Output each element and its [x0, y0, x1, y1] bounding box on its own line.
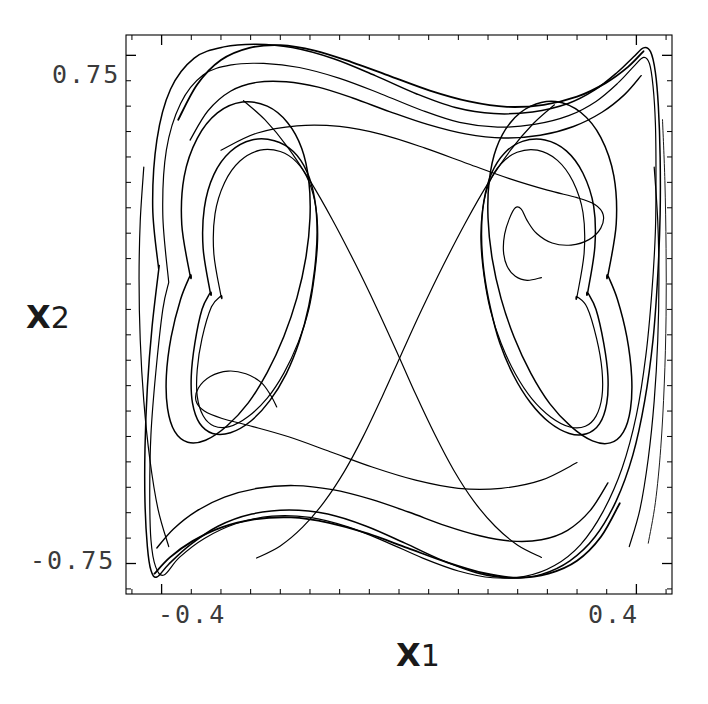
trajectory-path — [221, 125, 604, 280]
y-tick-label-0-75: 0.75 — [52, 60, 120, 89]
trajectory-path — [150, 57, 656, 578]
y-axis-title-main: X — [26, 298, 51, 336]
x-axis-title: X1 — [396, 636, 440, 674]
x-axis-title-sub: 1 — [421, 638, 440, 673]
trajectory-path — [178, 45, 643, 120]
trajectory-path — [648, 120, 666, 543]
y-tick-label-minus-0-75: -0.75 — [30, 546, 115, 575]
trajectory-path — [257, 105, 555, 558]
y-axis-title-sub: 2 — [51, 300, 70, 335]
trajectory-path — [629, 167, 659, 546]
trajectory-path — [481, 139, 608, 435]
figure-canvas: 0.75 -0.75 -0.4 0.4 X1 X2 — [0, 0, 708, 704]
x-tick-label-0-4: 0.4 — [588, 600, 639, 629]
trajectory-path — [154, 503, 619, 578]
x-tick-label-minus-0-4: -0.4 — [158, 600, 226, 629]
y-axis-title: X2 — [26, 298, 70, 336]
x-axis-title-main: X — [396, 636, 421, 674]
trajectory-path — [166, 102, 310, 443]
trajectory-path — [191, 139, 317, 435]
phase-portrait-plot — [0, 0, 708, 704]
trajectory-curves — [139, 44, 666, 578]
